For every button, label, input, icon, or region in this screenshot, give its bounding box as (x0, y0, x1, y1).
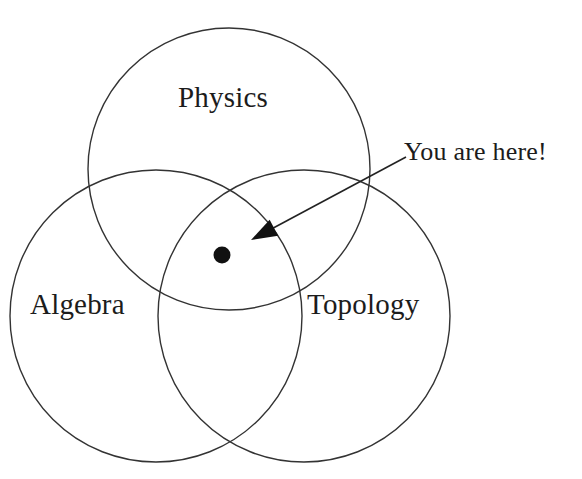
you-are-here-dot (214, 247, 231, 264)
circle-label-physics: Physics (178, 83, 268, 112)
annotation-label: You are here! (404, 139, 547, 165)
venn-diagram-figure: Physics Algebra Topology You are here! (0, 0, 582, 479)
venn-diagram-canvas (0, 0, 582, 479)
annotation-arrow-line (269, 157, 406, 231)
circle-physics (88, 28, 370, 310)
circle-label-topology: Topology (307, 290, 419, 319)
annotation-arrow-head (251, 220, 278, 240)
circle-label-algebra: Algebra (30, 290, 125, 319)
